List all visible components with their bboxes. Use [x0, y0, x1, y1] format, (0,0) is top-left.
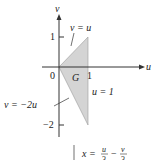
equation-term2-den: 3 — [121, 155, 125, 160]
u-axis-arrow-icon — [139, 65, 145, 70]
uv-plane-diagram: v u 0 1 1 −2 G v = u v = −2u u = 1 x = u… — [0, 0, 158, 160]
annotation-v-eq-neg2u: v = −2u — [4, 99, 37, 110]
equation-term1-den: 3 — [102, 155, 106, 160]
equation-term1-num: u — [102, 145, 106, 154]
v-axis-label: v — [55, 3, 60, 14]
equation-minus: − — [111, 148, 117, 159]
annotation-v-eq-u: v = u — [70, 22, 91, 33]
equation-term2-num: v — [121, 145, 125, 154]
tick-u-1-label: 1 — [87, 70, 92, 81]
equation: x = u 3 − v 3 — [81, 145, 127, 160]
tick-v-1-label: 1 — [50, 31, 55, 42]
leader-v-eq-neg2u — [54, 98, 69, 106]
leader-v-eq-u — [71, 33, 74, 46]
region-g-label: G — [72, 72, 79, 83]
v-axis-arrow-icon — [57, 14, 62, 20]
u-axis-label: u — [146, 61, 151, 72]
tick-v-neg2-label: −2 — [43, 119, 54, 130]
equation-lhs: x = — [81, 148, 96, 159]
annotation-u-eq-1: u = 1 — [92, 86, 114, 97]
origin-label: 0 — [50, 70, 55, 81]
